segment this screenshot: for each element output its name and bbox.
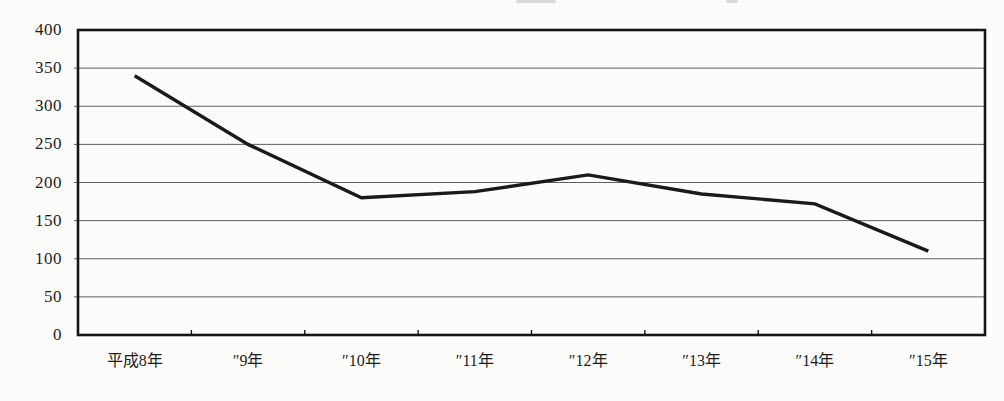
chart-canvas [0,0,1004,401]
x-axis-tick-label: ″9年 [233,353,264,369]
y-axis-tick-label: 350 [8,59,62,76]
y-axis-tick-label: 0 [8,326,62,343]
x-axis-tick-label: ″14年 [796,353,835,369]
x-axis-tick-label: 平成8年 [107,353,163,369]
y-axis-tick-label: 250 [8,136,62,153]
x-axis-tick-label: ″12年 [569,353,608,369]
data-line [135,76,929,251]
scan-crop-artifact [516,0,556,3]
y-axis-tick-label: 50 [8,288,62,305]
y-axis-tick-label: 400 [8,21,62,38]
x-axis-tick-label: ″10年 [342,353,381,369]
y-axis-tick-label: 300 [8,97,62,114]
x-axis-tick-label: ″13年 [682,353,721,369]
y-axis-tick-label: 100 [8,250,62,267]
x-axis-tick-label: ″11年 [456,353,494,369]
y-axis-tick-label: 200 [8,174,62,191]
x-axis-tick-label: ″15年 [909,353,948,369]
line-chart-figure: 050100150200250300350400平成8年″9年″10年″11年″… [0,0,1004,401]
y-axis-tick-label: 150 [8,212,62,229]
scan-crop-artifact [726,0,738,3]
